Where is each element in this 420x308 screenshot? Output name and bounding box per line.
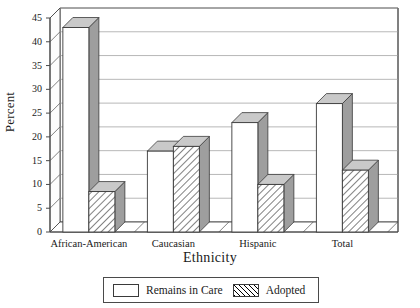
y-axis-tick-label: 5 <box>16 203 42 213</box>
y-axis-tick-label: 15 <box>16 156 42 166</box>
y-axis-tick-label: 20 <box>16 132 42 142</box>
y-axis-tick-label: 45 <box>16 13 42 23</box>
y-axis-tick-label: 0 <box>16 227 42 237</box>
bar-total-adopted <box>342 160 378 232</box>
bar-caucasian-adopted <box>173 136 209 232</box>
legend-label-remains-in-care: Remains in Care <box>146 284 223 296</box>
y-axis-tick-label: 30 <box>16 84 42 94</box>
y-axis-tick-label: 35 <box>16 61 42 71</box>
y-axis-tick-label: 40 <box>16 37 42 47</box>
y-axis-tick-label: 25 <box>16 108 42 118</box>
chart-legend: Remains in Care Adopted <box>103 277 319 303</box>
chart-figure: Percent 051015202530354045African-Americ… <box>0 0 420 308</box>
empty-white-swatch <box>113 284 139 297</box>
x-axis-title: Ethnicity <box>0 250 420 266</box>
diagonal-hatch-swatch <box>233 284 259 297</box>
legend-label-adopted: Adopted <box>266 284 306 296</box>
legend-item-adopted[interactable]: Adopted <box>233 284 316 297</box>
y-axis-tick-label: 10 <box>16 179 42 189</box>
x-axis-tick-label: Total <box>282 238 402 249</box>
bar-african-american-adopted <box>89 182 125 232</box>
bar-hispanic-adopted <box>258 174 294 232</box>
legend-item-remains-in-care[interactable]: Remains in Care <box>113 284 233 297</box>
